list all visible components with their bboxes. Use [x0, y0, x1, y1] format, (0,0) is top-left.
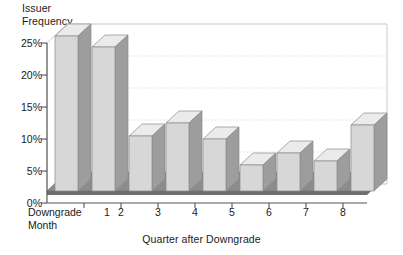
x-tick-label-2: 2: [109, 206, 133, 219]
x-tick-label-7: 7: [294, 206, 318, 219]
bar-quarter-2: [129, 124, 165, 191]
bar-quarter-4: [203, 127, 239, 191]
x-tick-label-6: 6: [257, 206, 281, 219]
x-tick-label-3: 3: [146, 206, 170, 219]
x-tick-label-5: 5: [220, 206, 244, 219]
bar-quarter-3: [166, 111, 202, 191]
x-tick-label-8: 8: [331, 206, 355, 219]
plot-floor-edge: [47, 191, 367, 195]
bar-chart: IssuerFrequency: [0, 0, 403, 255]
bar-quarter-8: [351, 113, 387, 191]
y-tick-label-25: 25%: [8, 37, 42, 49]
y-tick-label-15: 15%: [8, 101, 42, 113]
bar-quarter-6: [277, 141, 313, 191]
y-axis: [41, 43, 47, 203]
y-tick-label-5: 5%: [8, 165, 42, 177]
bar-downgrade-month: [55, 24, 91, 191]
y-tick-label-10: 10%: [8, 133, 42, 145]
x-axis-title: Quarter after Downgrade: [0, 233, 403, 245]
y-tick-label-20: 20%: [8, 69, 42, 81]
bar-quarter-1: [92, 35, 128, 191]
x-tick-label-4: 4: [183, 206, 207, 219]
